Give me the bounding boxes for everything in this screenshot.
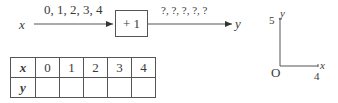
input-values: 0, 1, 2, 3, 4 <box>44 3 103 16</box>
input-variable: x <box>19 18 25 31</box>
origin-label: O <box>271 66 280 79</box>
y-cell[interactable] <box>108 78 132 98</box>
x-cell: 0 <box>36 58 60 78</box>
x-max-label: 4 <box>314 71 320 82</box>
x-cell: 2 <box>84 58 108 78</box>
table-row-y: y <box>11 78 156 98</box>
input-output-table: x 0 1 2 3 4 y <box>10 57 156 98</box>
x-cell: 1 <box>60 58 84 78</box>
y-cell[interactable] <box>84 78 108 98</box>
row-label-y: y <box>11 78 36 98</box>
x-cell: 3 <box>108 58 132 78</box>
table-row-x: x 0 1 2 3 4 <box>11 58 156 78</box>
y-cell[interactable] <box>36 78 60 98</box>
y-axis-label: y <box>280 8 285 19</box>
function-rule-box: + 1 <box>115 10 148 37</box>
output-variable: y <box>235 17 241 30</box>
row-label-x: x <box>11 58 36 78</box>
y-cell[interactable] <box>132 78 156 98</box>
y-max-label: 5 <box>269 15 275 26</box>
function-rule: + 1 <box>123 16 140 32</box>
y-cell[interactable] <box>60 78 84 98</box>
output-values: ?, ?, ?, ?, ? <box>161 5 207 16</box>
x-cell: 4 <box>132 58 156 78</box>
x-axis-label: x <box>320 60 325 71</box>
